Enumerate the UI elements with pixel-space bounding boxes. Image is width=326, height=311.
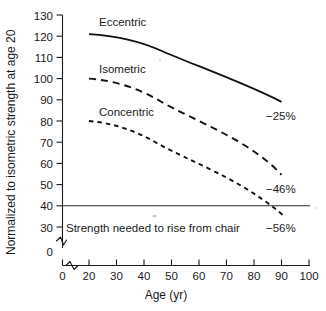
- annotation-concentric-decline: −56%: [266, 222, 296, 234]
- annotation-isometric-decline: −46%: [266, 183, 296, 195]
- x-tick-label-70: 70: [220, 270, 233, 282]
- y-axis-title: Normalized to isometric strength at age …: [4, 29, 18, 255]
- x-tick-label-90: 90: [275, 270, 288, 282]
- series-label-concentric: Concentric: [99, 106, 154, 118]
- reference-line-label: Strength needed to rise from chair: [66, 222, 240, 234]
- x-tick-label-20: 20: [83, 270, 96, 282]
- x-tick-label-80: 80: [248, 270, 261, 282]
- chart-container: 130 120 110 100 90 80 70 60 50 40 30 0 N…: [0, 0, 326, 311]
- x-tick-label-50: 50: [165, 270, 178, 282]
- annotation-eccentric-decline: −25%: [266, 110, 296, 122]
- y-tick-label-90: 90: [40, 94, 53, 106]
- x-tick-label-40: 40: [138, 270, 151, 282]
- x-tick-label-60: 60: [193, 270, 206, 282]
- y-tick-label-50: 50: [40, 179, 53, 191]
- y-tick-label-70: 70: [40, 137, 53, 149]
- y-tick-label-40: 40: [40, 200, 53, 212]
- y-tick-label-120: 120: [34, 31, 53, 43]
- strength-decline-line-chart: 130 120 110 100 90 80 70 60 50 40 30 0 N…: [0, 0, 326, 311]
- y-tick-label-130: 130: [34, 10, 53, 22]
- series-label-eccentric: Eccentric: [99, 16, 147, 28]
- x-tick-label-0: 0: [59, 270, 65, 282]
- y-tick-label-80: 80: [40, 116, 53, 128]
- y-tick-label-110: 110: [35, 52, 53, 64]
- y-tick-label-100: 100: [34, 73, 53, 85]
- series-label-isometric: Isometric: [99, 63, 146, 75]
- y-tick-label-0: 0: [47, 246, 53, 258]
- chart-background: [0, 0, 326, 311]
- x-tick-label-100: 100: [299, 270, 318, 282]
- y-tick-label-60: 60: [40, 158, 53, 170]
- x-tick-label-30: 30: [110, 270, 123, 282]
- y-tick-label-30: 30: [40, 222, 53, 234]
- x-axis-title: Age (yr): [145, 288, 188, 302]
